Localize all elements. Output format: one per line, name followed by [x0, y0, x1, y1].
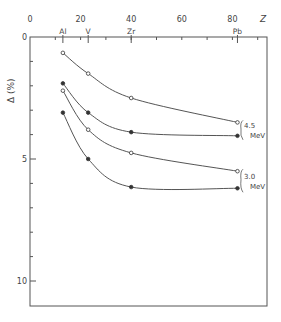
plot-frame	[30, 37, 267, 306]
x-tick-label: 80	[227, 15, 237, 24]
brace-icon	[241, 120, 243, 139]
element-label: V	[86, 27, 92, 36]
filled-marker	[236, 186, 240, 190]
data-curves	[61, 51, 239, 190]
filled-marker	[236, 134, 240, 138]
open-marker	[236, 121, 240, 125]
y-tick-label: 5	[22, 155, 27, 164]
x-axis-ticks: 020406080AlVZrPb	[27, 15, 257, 43]
energy-value: 3.0	[244, 173, 255, 181]
energy-unit: MeV	[250, 183, 265, 191]
y-tick-label: 0	[22, 33, 27, 42]
open-marker	[236, 169, 240, 173]
filled-marker	[61, 111, 65, 115]
element-label: Zr	[127, 27, 136, 36]
open-marker	[129, 151, 133, 155]
x-axis-label: Z	[259, 14, 267, 24]
open-marker	[129, 96, 133, 100]
y-tick-label: 10	[17, 277, 27, 286]
series-curve	[63, 113, 238, 190]
annotations: 4.5MeV3.0MeV	[241, 120, 266, 192]
energy-unit: MeV	[250, 132, 265, 140]
chart: 020406080AlVZrPb 0510 4.5MeV3.0MeV Z Δ (…	[0, 0, 281, 322]
x-tick-label: 0	[27, 15, 32, 24]
open-marker	[86, 72, 90, 76]
x-tick-label: 60	[177, 15, 187, 24]
element-label: Al	[59, 27, 66, 36]
open-marker	[86, 128, 90, 132]
y-axis-label: Δ (%)	[6, 78, 16, 103]
filled-marker	[61, 82, 65, 86]
element-label: Pb	[233, 27, 243, 36]
filled-marker	[86, 111, 90, 115]
open-marker	[61, 51, 65, 55]
y-axis-ticks: 0510	[17, 33, 36, 286]
energy-value: 4.5	[244, 122, 255, 130]
filled-marker	[129, 130, 133, 134]
filled-marker	[86, 157, 90, 161]
x-tick-label: 20	[76, 15, 86, 24]
open-marker	[61, 89, 65, 93]
filled-marker	[129, 185, 133, 189]
x-tick-label: 40	[126, 15, 136, 24]
brace-icon	[241, 169, 243, 192]
